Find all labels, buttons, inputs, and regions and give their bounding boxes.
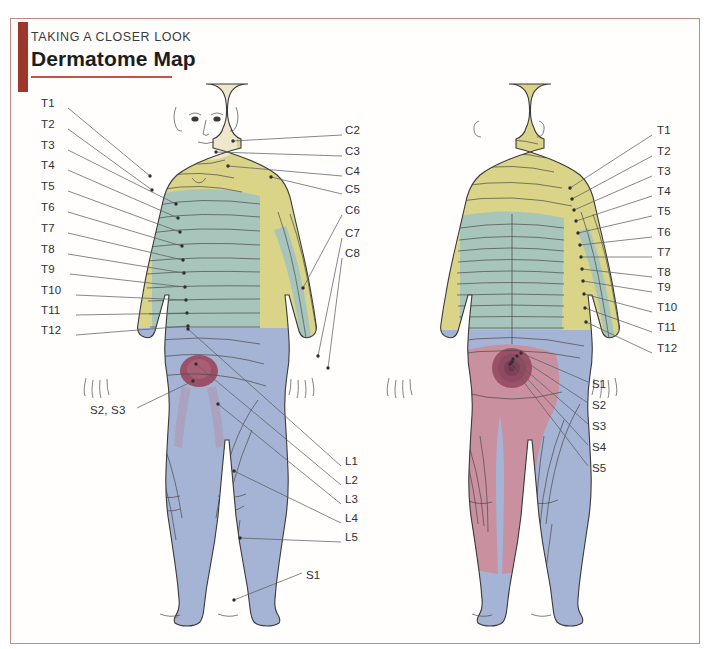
dermatome-label-t8-left_column: T8 [41, 243, 55, 255]
dermatome-label-t9-right_column: T9 [657, 281, 671, 293]
leader-endpoint [511, 357, 514, 360]
leader-line-c8 [328, 258, 342, 368]
dermatome-label-t9-left_column: T9 [41, 263, 55, 275]
dermatome-label-s5-right_sacral: S5 [592, 462, 606, 474]
dermatome-label-t10-right_column: T10 [657, 301, 677, 313]
leader-endpoint [570, 197, 573, 200]
posterior-figure [387, 70, 629, 649]
dermatome-label-c4-center_cervical: C4 [345, 165, 360, 177]
dermatome-label-t10-left_column: T10 [41, 284, 61, 296]
dermatome-label-t8-right_column: T8 [657, 266, 671, 278]
leader-endpoint [568, 186, 571, 189]
dermatome-label-c7-center_cervical: C7 [345, 227, 360, 239]
leader-endpoint [583, 306, 586, 309]
dermatome-label-t6-right_column: T6 [657, 226, 671, 238]
leader-endpoint [181, 258, 184, 261]
dermatome-label-t2-right_column: T2 [657, 145, 671, 157]
leader-endpoint [238, 536, 241, 539]
leader-endpoint [232, 469, 235, 472]
dermatome-label-t2-left_column: T2 [41, 118, 55, 130]
leader-endpoint [232, 598, 235, 601]
leader-endpoint [582, 292, 585, 295]
leader-line-t1 [68, 108, 150, 176]
leader-endpoint [301, 286, 304, 289]
dermatome-label-l2-center_lumbar: L2 [345, 474, 358, 486]
leader-endpoint [576, 231, 579, 234]
dermatome-label-c3-center_cervical: C3 [345, 145, 360, 157]
leader-endpoint [581, 279, 584, 282]
leader-line-t2 [572, 156, 652, 199]
leader-endpoint [214, 150, 217, 153]
dermatome-label-l1-center_lumbar: L1 [345, 455, 358, 467]
dermatome-label-l3-center_lumbar: L3 [345, 493, 358, 505]
dermatome-label-t4-left_column: T4 [41, 159, 55, 171]
leader-endpoint [519, 351, 522, 354]
leader-endpoint [269, 175, 272, 178]
dermatome-label-t7-right_column: T7 [657, 246, 671, 258]
leader-endpoint [185, 311, 188, 314]
dermatome-label-t1-left_column: T1 [41, 97, 55, 109]
leader-endpoint [316, 354, 319, 357]
dermatome-label-t3-left_column: T3 [41, 139, 55, 151]
dermatome-map-page: TAKING A CLOSER LOOK Dermatome Map .ol{f… [0, 0, 708, 649]
leader-endpoint [184, 298, 187, 301]
dermatome-label-s2-right_sacral: S2 [592, 399, 606, 411]
leader-endpoint [176, 216, 179, 219]
leader-endpoint [226, 164, 229, 167]
leader-endpoint [231, 139, 234, 142]
dermatome-label-t11-left_column: T11 [41, 304, 60, 316]
leader-line-c7 [318, 238, 342, 356]
leader-line-t2 [68, 129, 152, 190]
leader-endpoint [194, 362, 197, 365]
leader-endpoint [216, 402, 219, 405]
dermatome-label-l4-center_lumbar: L4 [345, 512, 358, 524]
dermatome-label-t7-left_column: T7 [41, 222, 55, 234]
leader-endpoint [186, 324, 189, 327]
leader-endpoint [183, 285, 186, 288]
leader-line-c6 [303, 215, 342, 288]
dermatome-label-c8-center_cervical: C8 [345, 247, 360, 259]
dermatome-label-t4-right_column: T4 [657, 185, 671, 197]
leader-endpoint [572, 208, 575, 211]
leader-endpoint [579, 255, 582, 258]
dermatome-label-t6-left_column: T6 [41, 201, 55, 213]
dermatome-label-t5-right_column: T5 [657, 205, 671, 217]
dermatome-label-s2-s3-left_other: S2, S3 [90, 404, 125, 416]
dermatome-label-t12-left_column: T12 [41, 324, 61, 336]
dermatome-label-c5-center_cervical: C5 [345, 183, 360, 195]
dermatome-label-t1-right_column: T1 [657, 124, 671, 136]
leader-line-t1 [570, 135, 652, 188]
leader-endpoint [174, 202, 177, 205]
dermatome-label-t5-left_column: T5 [41, 180, 55, 192]
dermatome-label-s1-bottom: S1 [306, 569, 320, 581]
dermatome-label-s4-right_sacral: S4 [592, 441, 606, 453]
anterior-figure [84, 70, 326, 649]
leader-endpoint [515, 354, 518, 357]
leader-endpoint [191, 379, 194, 382]
dermatome-illustration: .ol{fill:none;stroke:#3a3a3a;stroke-widt… [0, 0, 708, 649]
leader-line-c2 [233, 135, 342, 141]
dermatome-label-t11-right_column: T11 [657, 321, 676, 333]
dermatome-label-s3-right_sacral: S3 [592, 420, 606, 432]
leader-endpoint [178, 230, 181, 233]
dermatome-label-l5-center_lumbar: L5 [345, 531, 358, 543]
leader-endpoint [584, 320, 587, 323]
dermatome-label-c6-center_cervical: C6 [345, 204, 360, 216]
leader-endpoint [574, 219, 577, 222]
leader-endpoint [182, 271, 185, 274]
leader-endpoint [580, 267, 583, 270]
leader-endpoint [508, 362, 511, 365]
dermatome-label-t3-right_column: T3 [657, 165, 671, 177]
leader-endpoint [578, 243, 581, 246]
leader-endpoint [326, 366, 329, 369]
leader-endpoint [148, 174, 151, 177]
dermatome-label-c2-center_cervical: C2 [345, 124, 360, 136]
leader-endpoint [180, 244, 183, 247]
dermatome-label-t12-right_column: T12 [657, 342, 677, 354]
dermatome-label-s1-right_sacral: S1 [592, 378, 606, 390]
leader-endpoint [186, 327, 189, 330]
